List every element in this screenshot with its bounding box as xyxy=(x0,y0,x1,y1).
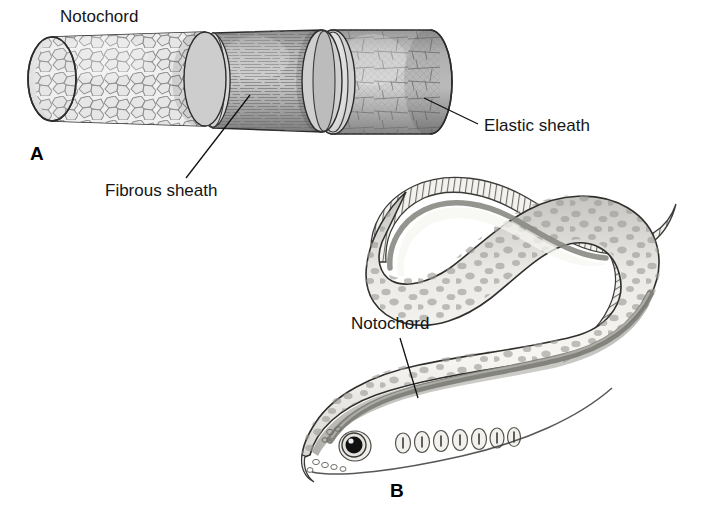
lamprey-eye xyxy=(339,431,371,461)
panel-letter-b: B xyxy=(390,480,404,501)
figure-root: Notochord Fibrous sheath Elastic sheath … xyxy=(0,0,711,520)
label-notochord-panel-a: Notochord xyxy=(60,7,138,26)
panel-a-notochord-cylinder xyxy=(28,26,456,138)
figure-illustration: Notochord Fibrous sheath Elastic sheath … xyxy=(0,0,711,520)
label-fibrous-sheath: Fibrous sheath xyxy=(105,181,217,200)
notochord-core-segment xyxy=(28,28,228,132)
panel-letter-a: A xyxy=(30,143,44,164)
label-notochord-panel-b: Notochord xyxy=(351,314,429,333)
label-elastic-sheath: Elastic sheath xyxy=(484,116,590,135)
